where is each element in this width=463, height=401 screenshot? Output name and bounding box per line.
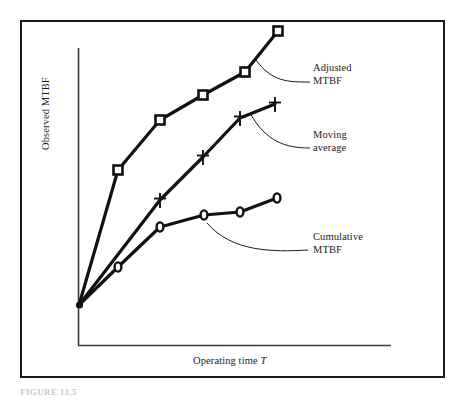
series-annotation-moving-average: Moving average <box>313 128 347 154</box>
annotation-line-1: Adjusted <box>313 61 352 74</box>
annotation-line-1: Moving <box>313 128 347 141</box>
series-annotation-adjusted-mtbf: Adjusted MTBF <box>313 61 352 87</box>
figure-frame-border <box>20 20 445 378</box>
x-axis-label-text: Operating time <box>193 355 260 366</box>
annotation-line-2: MTBF <box>313 74 352 87</box>
annotation-line-2: MTBF <box>313 243 363 256</box>
annotation-line-1: Cumulative <box>313 230 363 243</box>
annotation-line-2: average <box>313 141 347 154</box>
figure-caption: FIGURE 11.5 <box>20 387 77 397</box>
x-axis-label: Operating time T <box>193 355 266 366</box>
y-axis-label: Observed MTBF <box>40 77 51 150</box>
series-annotation-cumulative-mtbf: Cumulative MTBF <box>313 230 363 256</box>
x-axis-variable: T <box>260 355 266 366</box>
figure-page: Observed MTBF Operating time T Adjusted … <box>0 0 463 401</box>
